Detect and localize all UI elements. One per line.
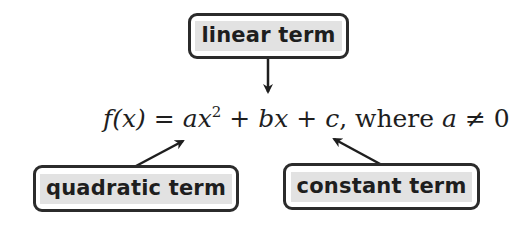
var-x: x: [198, 104, 212, 133]
coef-a: a: [183, 104, 198, 133]
exponent: 2: [212, 103, 222, 121]
not-equal-sign: ≠: [465, 104, 486, 133]
coef-b: b: [258, 104, 274, 133]
condition-var: a: [442, 104, 457, 133]
equals-sign: =: [154, 104, 175, 133]
quadratic-term-callout: quadratic term: [33, 165, 239, 212]
comma: ,: [339, 104, 347, 133]
constant-term-label: constant term: [291, 172, 473, 202]
constant-term-arrow: [334, 139, 382, 165]
linear-term-callout: linear term: [188, 13, 349, 59]
quadratic-function-equation: f(x) = ax2 + bx + c, where a ≠ 0: [103, 104, 510, 134]
const-c: c: [325, 104, 339, 133]
quadratic-term-arrow: [136, 141, 183, 166]
linear-term: bx: [258, 104, 288, 133]
plus-sign: +: [296, 104, 317, 133]
var-x: x: [274, 104, 288, 133]
condition-value: 0: [494, 104, 510, 133]
where-text: where: [355, 104, 434, 133]
linear-term-label: linear term: [195, 21, 341, 51]
constant-term-callout: constant term: [283, 163, 480, 210]
quadratic-term: ax2: [183, 104, 222, 133]
constant-term: c,: [325, 104, 347, 133]
plus-sign: +: [229, 104, 250, 133]
function-lhs: f(x): [103, 104, 146, 133]
quadratic-term-label: quadratic term: [40, 174, 232, 204]
